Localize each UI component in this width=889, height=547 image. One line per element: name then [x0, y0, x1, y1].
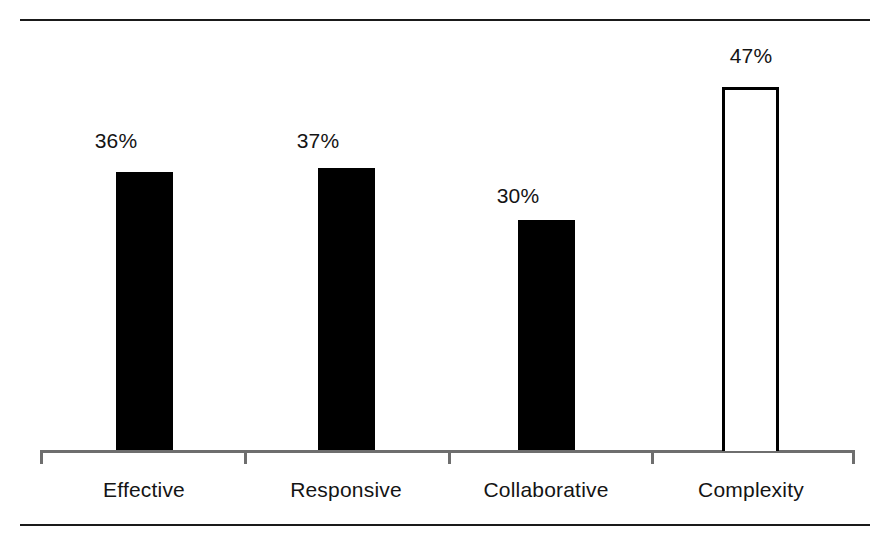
figure-bottom-rule [20, 524, 870, 526]
bar-effective[interactable] [116, 172, 173, 450]
axis-tick-2 [448, 450, 451, 464]
bar-collaborative[interactable] [518, 220, 575, 450]
category-label-collaborative: Collaborative [436, 478, 656, 502]
bar-responsive[interactable] [318, 168, 375, 450]
bar-value-label-collaborative: 30% [458, 184, 578, 208]
bar-value-label-complexity: 47% [691, 44, 811, 68]
category-label-responsive: Responsive [236, 478, 456, 502]
axis-tick-1 [244, 450, 247, 464]
bar-complexity[interactable] [722, 87, 779, 451]
plot-area: 36% Effective 37% Responsive 30% Collabo… [0, 0, 889, 547]
axis-tick-0 [40, 450, 43, 464]
axis-tick-4 [852, 450, 855, 464]
axis-tick-3 [651, 450, 654, 464]
category-label-complexity: Complexity [641, 478, 861, 502]
category-label-effective: Effective [34, 478, 254, 502]
chart-figure: 36% Effective 37% Responsive 30% Collabo… [0, 0, 889, 547]
bar-value-label-responsive: 37% [258, 129, 378, 153]
bar-value-label-effective: 36% [56, 129, 176, 153]
